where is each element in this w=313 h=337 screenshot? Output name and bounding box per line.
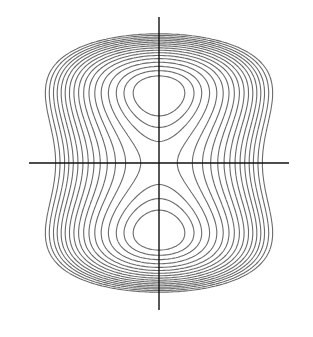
contour-plot <box>0 0 313 337</box>
